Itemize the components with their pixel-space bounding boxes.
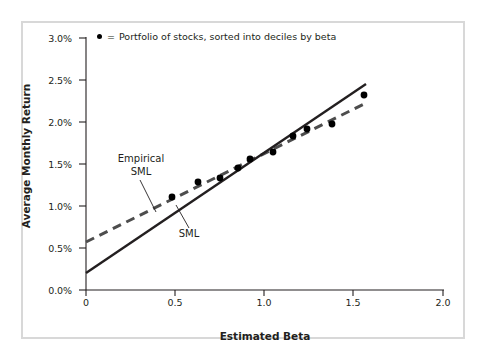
chart-canvas: 3.0% 2.5% 2.0% 1.5% 1.0% 0.5% 0.0% 0 0.5… (0, 0, 487, 359)
data-point (195, 179, 202, 186)
x-ticks (86, 290, 443, 296)
data-points (169, 92, 368, 201)
sml-line (86, 84, 366, 273)
empirical-sml-line (86, 103, 366, 242)
data-point (290, 133, 297, 140)
y-ticks (79, 38, 86, 290)
data-point (329, 121, 336, 128)
axes (79, 37, 444, 296)
data-point (169, 194, 176, 201)
empirical-sml-leader (140, 180, 156, 212)
data-point (361, 92, 368, 99)
data-point (217, 175, 224, 182)
data-point (235, 165, 242, 172)
plot-svg (0, 0, 487, 359)
data-point (304, 126, 311, 133)
data-point (270, 149, 277, 156)
data-point (247, 156, 254, 163)
